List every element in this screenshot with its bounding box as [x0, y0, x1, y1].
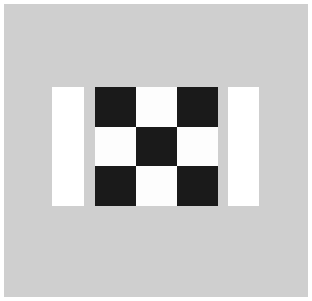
- cell-r1c3: [177, 87, 218, 127]
- left-white-bar: [52, 87, 84, 206]
- cell-r1c2: [136, 87, 177, 127]
- cell-r2c3: [177, 127, 218, 167]
- cell-r1c1: [95, 87, 136, 127]
- cell-r3c3: [177, 166, 218, 206]
- stimulus-image: [0, 0, 312, 301]
- checkerboard: [95, 87, 218, 206]
- cell-r2c1: [95, 127, 136, 167]
- cell-r3c1: [95, 166, 136, 206]
- right-white-bar: [228, 87, 259, 206]
- cell-r3c2: [136, 166, 177, 206]
- cell-r2c2: [136, 127, 177, 167]
